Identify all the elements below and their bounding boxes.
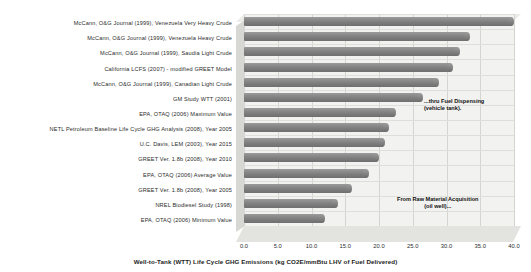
x-tick-label: 35.0 (475, 243, 486, 249)
plot-floor (236, 226, 521, 242)
bar (244, 199, 335, 208)
bar-end-cap (390, 108, 396, 117)
bar (244, 123, 386, 132)
annotation-fuel-dispensing: ...thru Fuel Dispensing (vehicle tank). (424, 98, 484, 112)
bar (244, 32, 467, 41)
annotation-raw-material-line2: (oil well)... (397, 203, 479, 210)
annotation-fuel-dispensing-line2: (vehicle tank). (424, 105, 484, 112)
category-label: McCann, O&G Journal (1999), Canadian Lig… (93, 81, 232, 87)
category-label: EPA, OTAQ (2006) Average Value (143, 172, 232, 178)
bar-end-cap (433, 78, 439, 87)
category-label: NREL Biodiesel Study (1998) (155, 202, 232, 208)
x-tick-label: 20.0 (373, 243, 384, 249)
x-tick-label: 40.0 (508, 243, 519, 249)
chart-root: McCann, O&G Journal (1999), Venezuela Ve… (0, 0, 531, 272)
category-label: California LCFS (2007) - modified GREET … (104, 66, 232, 72)
category-label: McCann, O&G Journal (1999), Venezuela Ve… (74, 20, 232, 26)
x-axis-ticks: 0.05.010.015.020.025.030.035.040.0 (236, 243, 521, 253)
bar-end-cap (383, 123, 389, 132)
bar (244, 108, 393, 117)
bar (244, 47, 457, 56)
bar (244, 63, 450, 72)
bar-body (244, 138, 382, 147)
bar-end-cap (319, 214, 325, 223)
bar-body (244, 47, 457, 56)
bar-end-cap (363, 169, 369, 178)
bar-body (244, 108, 393, 117)
bar-body (244, 214, 322, 223)
category-label: U.C. Davis, LEM (2003), Year 2015 (140, 141, 232, 147)
bar-body (244, 153, 376, 162)
bar-end-cap (379, 138, 385, 147)
x-axis-title: Well-to-Tank (WTT) Life Cycle GHG Emissi… (0, 258, 531, 265)
x-tick-label: 0.0 (240, 243, 248, 249)
bar-body (244, 184, 349, 193)
gridline-vertical (514, 14, 515, 234)
bar (244, 214, 322, 223)
bar-end-cap (447, 63, 453, 72)
bar-end-cap (508, 17, 514, 26)
category-label: GM Study WTT (2001) (173, 96, 232, 102)
x-tick-label: 10.0 (306, 243, 317, 249)
bar-body (244, 93, 420, 102)
category-label: GREET Ver. 1.8b (2008), Year 2005 (138, 187, 232, 193)
bar (244, 17, 511, 26)
bar-end-cap (454, 47, 460, 56)
x-tick-label: 15.0 (340, 243, 351, 249)
x-tick-label: 30.0 (441, 243, 452, 249)
bar (244, 153, 376, 162)
bar-end-cap (464, 32, 470, 41)
bar-body (244, 199, 335, 208)
bar (244, 184, 349, 193)
annotation-raw-material-line1: From Raw Material Acquisition (397, 196, 479, 203)
category-axis-labels: McCann, O&G Journal (1999), Venezuela Ve… (0, 16, 234, 238)
category-label: McCann, O&G Journal (1999), Venezuela He… (87, 35, 232, 41)
bar (244, 138, 382, 147)
category-label: EPA, OTAQ (2006) Maximum Value (139, 111, 232, 117)
category-label: GREET Ver. 1.8b (2008), Year 2010 (138, 156, 232, 162)
x-tick-label: 25.0 (407, 243, 418, 249)
bar-end-cap (417, 93, 423, 102)
bar-end-cap (332, 199, 338, 208)
bar-body (244, 63, 450, 72)
bar-end-cap (346, 184, 352, 193)
bar (244, 78, 436, 87)
x-tick-label: 5.0 (274, 243, 282, 249)
category-label: McCann, O&G Journal (1999), Saudia Light… (100, 50, 232, 56)
annotation-raw-material: From Raw Material Acquisition (oil well)… (397, 196, 479, 210)
bar-body (244, 17, 511, 26)
category-label: NETL Petroleum Baseline Life Cycle GHG A… (50, 126, 232, 132)
bar-end-cap (373, 153, 379, 162)
bar-body (244, 169, 366, 178)
bar-body (244, 123, 386, 132)
bar (244, 169, 366, 178)
bar-series (244, 14, 514, 226)
bar (244, 93, 420, 102)
bar-body (244, 32, 467, 41)
bar-body (244, 78, 436, 87)
annotation-fuel-dispensing-line1: ...thru Fuel Dispensing (424, 98, 484, 105)
category-label: EPA, OTAQ (2006) Minimum Value (141, 217, 232, 223)
